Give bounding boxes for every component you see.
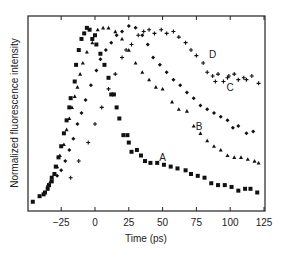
point-square	[236, 189, 240, 193]
point-square	[248, 187, 252, 191]
point-triangle	[134, 61, 138, 65]
point-diamond	[244, 131, 248, 135]
point-square	[148, 161, 152, 165]
point-square	[117, 117, 121, 121]
point-square	[189, 172, 193, 176]
point-plus	[250, 74, 254, 78]
point-plus	[211, 74, 215, 78]
point-square	[139, 154, 143, 158]
point-square	[255, 191, 259, 195]
point-square	[209, 181, 213, 185]
point-square	[127, 141, 131, 145]
point-square	[93, 33, 97, 37]
point-square	[243, 187, 247, 191]
point-square	[184, 168, 188, 172]
point-triangle	[90, 41, 94, 45]
point-diamond	[171, 78, 175, 82]
curve-label-c: C	[227, 82, 234, 93]
point-plus	[152, 31, 156, 35]
point-square	[73, 80, 77, 84]
point-diamond	[198, 104, 202, 108]
point-triangle	[78, 72, 82, 76]
point-square	[203, 176, 207, 180]
point-diamond	[104, 48, 108, 52]
point-diamond	[98, 57, 102, 61]
point-diamond	[151, 55, 155, 59]
point-triangle	[67, 117, 71, 121]
point-square	[112, 92, 116, 96]
point-square	[130, 150, 134, 154]
point-triangle	[246, 157, 250, 161]
point-diamond	[127, 24, 131, 28]
point-plus	[232, 72, 236, 76]
point-diamond	[79, 111, 83, 115]
point-triangle	[58, 154, 62, 158]
point-plus	[194, 54, 198, 58]
point-plus	[213, 80, 217, 84]
point-square	[230, 185, 234, 189]
point-diamond	[251, 129, 255, 133]
point-square	[107, 76, 111, 80]
point-square	[38, 194, 42, 198]
point-triangle	[205, 139, 209, 143]
point-triangle	[62, 142, 66, 146]
point-plus	[171, 30, 175, 34]
curve-labels: ABCD	[159, 49, 234, 164]
point-square	[88, 28, 92, 32]
point-triangle	[147, 78, 151, 82]
point-diamond	[165, 70, 169, 74]
point-plus	[205, 70, 209, 74]
point-square	[31, 200, 35, 204]
point-diamond	[67, 148, 71, 152]
point-diamond	[205, 107, 209, 111]
point-square	[82, 31, 86, 35]
point-triangle	[239, 155, 243, 159]
point-square	[175, 166, 179, 170]
point-square	[121, 133, 125, 137]
point-square	[223, 183, 227, 187]
point-plus	[257, 81, 261, 85]
point-diamond	[134, 26, 138, 30]
point-plus	[113, 72, 117, 76]
point-triangle	[225, 154, 229, 158]
point-plus	[136, 33, 140, 37]
point-triangle	[107, 26, 111, 30]
point-triangle	[257, 161, 261, 165]
x-tick-label: 50	[157, 217, 169, 228]
point-triangle	[161, 87, 165, 91]
point-diamond	[225, 118, 229, 122]
point-square	[79, 37, 83, 41]
point-diamond	[71, 137, 75, 141]
point-diamond	[59, 168, 63, 172]
point-diamond	[192, 96, 196, 100]
point-triangle	[65, 128, 69, 132]
point-triangle	[120, 37, 124, 41]
point-plus	[236, 78, 240, 82]
point-square	[196, 174, 200, 178]
point-triangle	[101, 26, 105, 30]
curve-label-d: D	[209, 49, 216, 60]
point-square	[77, 48, 81, 52]
x-tick-label: 0	[92, 217, 98, 228]
point-diamond	[158, 63, 162, 67]
point-plus	[216, 72, 220, 76]
point-square	[102, 63, 106, 67]
point-square	[69, 96, 73, 100]
point-plus	[221, 80, 225, 84]
point-square	[169, 165, 173, 169]
point-square	[90, 37, 94, 41]
point-diamond	[140, 33, 144, 37]
point-plus	[201, 61, 205, 65]
point-triangle	[212, 144, 216, 148]
point-diamond	[231, 126, 235, 130]
point-plus	[184, 41, 188, 45]
point-plus	[100, 105, 104, 109]
point-diamond	[185, 91, 189, 95]
point-diamond	[94, 68, 98, 72]
point-square	[74, 63, 78, 67]
point-plus	[93, 122, 97, 126]
point-triangle	[75, 85, 79, 89]
point-diamond	[236, 124, 240, 128]
point-triangle	[253, 159, 257, 163]
point-square	[216, 183, 220, 187]
